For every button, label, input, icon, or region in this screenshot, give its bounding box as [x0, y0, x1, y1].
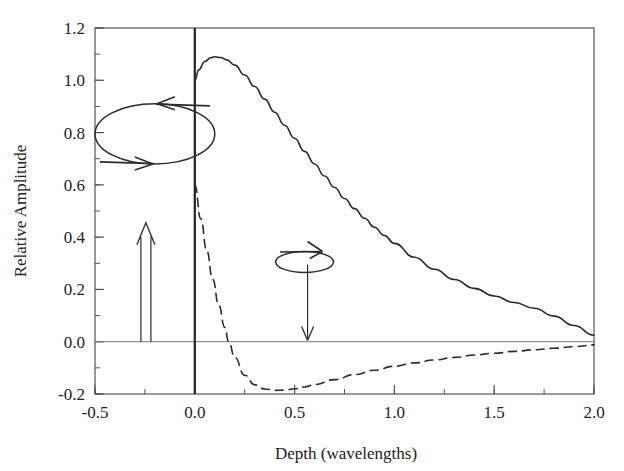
y-tick-label: 1.2: [64, 19, 85, 38]
y-tick-label: 0.0: [64, 333, 85, 352]
arrow-shaft: [280, 252, 321, 253]
y-tick-label: 0.2: [64, 280, 85, 299]
y-tick-label: 0.8: [64, 124, 85, 143]
x-tick-label: 0.5: [284, 403, 305, 422]
figure-container: -0.50.00.51.01.52.0 -0.20.00.20.40.60.81…: [0, 0, 624, 471]
x-axis-title: Depth (wavelengths): [275, 444, 417, 463]
y-tick-label: 0.6: [64, 176, 85, 195]
x-tick-label: 1.0: [384, 403, 405, 422]
y-tick-label: 1.0: [64, 71, 85, 90]
y-tick-label: -0.2: [58, 385, 85, 404]
x-tick-label: -0.5: [82, 403, 109, 422]
x-tick-label: 1.5: [484, 403, 505, 422]
x-tick-label: 0.0: [184, 403, 205, 422]
y-tick-label: 0.4: [64, 228, 86, 247]
x-tick-label: 2.0: [583, 403, 604, 422]
y-axis-title: Relative Amplitude: [11, 145, 30, 278]
chart-background: [0, 0, 624, 471]
rayleigh-wave-amplitude-chart: -0.50.00.51.01.52.0 -0.20.00.20.40.60.81…: [0, 0, 624, 471]
